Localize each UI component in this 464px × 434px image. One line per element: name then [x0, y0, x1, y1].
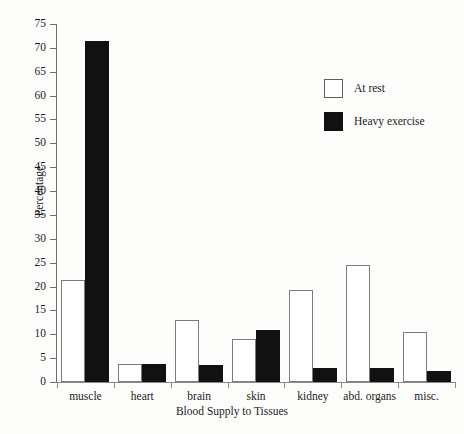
- legend-label-heavy-exercise: Heavy exercise: [354, 115, 425, 127]
- y-axis-tick-label: 5: [0, 352, 46, 364]
- bar-kidney-at-rest: [289, 290, 313, 382]
- bar-heart-heavy-exercise: [142, 364, 166, 382]
- bar-brain-at-rest: [175, 320, 199, 382]
- y-axis-tick: [50, 143, 57, 144]
- x-axis-tick: [284, 383, 285, 388]
- bar-kidney-heavy-exercise: [313, 368, 337, 382]
- y-axis-tick: [50, 287, 57, 288]
- legend-swatch-heavy-exercise: [324, 112, 343, 131]
- y-axis-tick-label: 70: [0, 42, 46, 54]
- y-axis-tick: [50, 24, 57, 25]
- chart-legend: At rest Heavy exercise: [324, 78, 425, 144]
- y-axis-tick-label: 60: [0, 90, 46, 102]
- x-axis-label-misc-: misc.: [370, 390, 464, 403]
- bar-abd-organs-heavy-exercise: [370, 368, 394, 382]
- bar-misc--heavy-exercise: [427, 371, 451, 382]
- y-axis-tick: [50, 191, 57, 192]
- y-axis-tick: [50, 382, 57, 383]
- bar-misc--at-rest: [403, 332, 427, 382]
- x-axis-tick: [398, 383, 399, 388]
- x-axis-tick: [114, 383, 115, 388]
- y-axis-tick-label: 55: [0, 113, 46, 125]
- bar-abd-organs-at-rest: [346, 265, 370, 382]
- x-axis-tick: [57, 383, 58, 388]
- y-axis-title: Percentage: [33, 131, 45, 251]
- x-axis-line: [56, 382, 456, 383]
- bar-muscle-at-rest: [61, 280, 85, 382]
- y-axis-tick: [50, 72, 57, 73]
- y-axis-tick: [50, 167, 57, 168]
- bar-skin-at-rest: [232, 339, 256, 382]
- y-axis-tick: [50, 48, 57, 49]
- y-axis-tick-label: 25: [0, 257, 46, 269]
- legend-label-at-rest: At rest: [354, 82, 385, 94]
- y-axis-tick: [50, 358, 57, 359]
- y-axis-tick: [50, 119, 57, 120]
- bar-skin-heavy-exercise: [256, 330, 280, 383]
- y-axis-tick-label: 10: [0, 328, 46, 340]
- x-axis-title: Blood Supply to Tissues: [0, 405, 464, 418]
- x-axis-tick: [228, 383, 229, 388]
- bar-muscle-heavy-exercise: [85, 41, 109, 382]
- y-axis-tick: [50, 263, 57, 264]
- legend-swatch-at-rest: [324, 79, 343, 98]
- y-axis-tick: [50, 239, 57, 240]
- y-axis-tick: [50, 310, 57, 311]
- y-axis-tick: [50, 334, 57, 335]
- bar-chart-figure: 051015202530354045505560657075 musclehea…: [0, 0, 464, 434]
- x-axis-tick: [341, 383, 342, 388]
- x-axis-tick: [455, 383, 456, 388]
- y-axis-tick-label: 65: [0, 66, 46, 78]
- y-axis-tick-label: 20: [0, 281, 46, 293]
- legend-item-heavy-exercise: Heavy exercise: [324, 111, 425, 131]
- y-axis-tick-label: 15: [0, 304, 46, 316]
- x-axis-tick: [171, 383, 172, 388]
- y-axis-tick: [50, 215, 57, 216]
- bar-heart-at-rest: [118, 364, 142, 382]
- y-axis-tick: [50, 96, 57, 97]
- y-axis-tick-label: 0: [0, 376, 46, 388]
- y-axis-tick-label: 75: [0, 18, 46, 30]
- legend-item-at-rest: At rest: [324, 78, 425, 98]
- bar-brain-heavy-exercise: [199, 365, 223, 382]
